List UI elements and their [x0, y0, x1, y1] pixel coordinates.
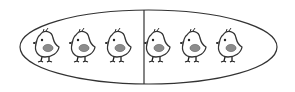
chick-icon — [69, 28, 95, 62]
chick-icon — [216, 28, 242, 62]
chick-icon — [180, 28, 206, 62]
left-group — [33, 28, 131, 62]
diagram — [0, 0, 295, 92]
chick-icon — [33, 28, 59, 62]
right-group — [144, 28, 242, 62]
chick-set-diagram — [0, 0, 295, 92]
chick-icon — [105, 28, 131, 62]
chick-icon — [144, 28, 170, 62]
